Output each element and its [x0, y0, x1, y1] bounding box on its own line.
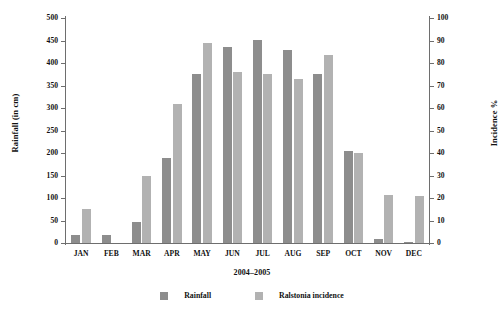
bar-incidence: [233, 72, 242, 243]
bar-rainfall: [71, 235, 80, 243]
tick-mark: [61, 153, 65, 154]
bar-group: JUN: [217, 18, 247, 243]
tick-label: 200: [47, 149, 58, 157]
tick-label: 20: [437, 194, 445, 202]
chart-figure: Rainfall (in cm) Incidence % 2004–2005 0…: [0, 0, 504, 316]
tick-mark: [61, 198, 65, 199]
tick-mark: [61, 18, 65, 19]
bar-group: FEB: [96, 18, 126, 243]
x-axis-category-label: JAN: [74, 249, 89, 258]
bar-group: JUL: [248, 18, 278, 243]
y-axis-left-title: Rainfall (in cm): [10, 63, 20, 183]
x-axis-category-label: NOV: [375, 249, 392, 258]
tick-label: 400: [47, 59, 58, 67]
x-axis-category-label: MAR: [133, 249, 151, 258]
bar-rainfall: [192, 74, 201, 243]
bar-rainfall: [132, 222, 141, 243]
tick-mark: [430, 198, 434, 199]
x-axis-category-label: JUN: [225, 249, 240, 258]
tick-label: 50: [437, 127, 445, 135]
x-axis-category-label: OCT: [345, 249, 361, 258]
legend-label: Ralstonia incidence: [279, 291, 344, 300]
tick-label: 40: [437, 149, 445, 157]
x-axis-category-label: AUG: [284, 249, 301, 258]
tick-mark: [430, 41, 434, 42]
bar-incidence: [173, 104, 182, 244]
tick-mark: [430, 221, 434, 222]
bar-rainfall: [283, 50, 292, 243]
bar-incidence: [324, 55, 333, 243]
tick-label: 0: [54, 239, 58, 247]
y-axis-right-title: Incidence %: [489, 63, 499, 183]
tick-label: 30: [437, 172, 445, 180]
tick-label: 90: [437, 37, 445, 45]
bar-rainfall: [253, 40, 262, 243]
x-axis-title: 2004–2005: [0, 268, 504, 277]
tick-label: 60: [437, 104, 445, 112]
tick-mark: [430, 131, 434, 132]
tick-label: 100: [437, 14, 448, 22]
tick-mark: [430, 243, 434, 244]
bar-group: JAN: [66, 18, 96, 243]
x-axis-category-label: APR: [164, 249, 180, 258]
bar-group: NOV: [369, 18, 399, 243]
bar-group: APR: [157, 18, 187, 243]
bar-rainfall: [162, 158, 171, 243]
tick-mark: [61, 63, 65, 64]
bar-incidence: [142, 176, 151, 244]
tick-mark: [61, 176, 65, 177]
tick-mark: [430, 108, 434, 109]
legend-item: Rainfall: [160, 291, 211, 300]
tick-mark: [61, 243, 65, 244]
tick-label: 100: [47, 194, 58, 202]
tick-label: 500: [47, 14, 58, 22]
tick-label: 450: [47, 37, 58, 45]
tick-mark: [61, 108, 65, 109]
bar-rainfall: [404, 242, 413, 243]
bar-incidence: [82, 209, 91, 243]
bar-rainfall: [374, 239, 383, 243]
tick-label: 10: [437, 217, 445, 225]
tick-label: 150: [47, 172, 58, 180]
tick-label: 50: [50, 217, 58, 225]
tick-mark: [61, 131, 65, 132]
tick-label: 0: [437, 239, 441, 247]
tick-mark: [61, 41, 65, 42]
legend-label: Rainfall: [184, 291, 211, 300]
x-axis-category-label: SEP: [316, 249, 330, 258]
tick-label: 80: [437, 59, 445, 67]
x-axis-category-label: JUL: [255, 249, 269, 258]
tick-mark: [430, 86, 434, 87]
bar-group: MAY: [187, 18, 217, 243]
bar-incidence: [354, 153, 363, 243]
chart-legend: RainfallRalstonia incidence: [0, 291, 504, 300]
bar-rainfall: [313, 74, 322, 243]
bar-rainfall: [344, 151, 353, 243]
tick-mark: [61, 86, 65, 87]
bar-incidence: [384, 195, 393, 243]
bar-incidence: [203, 43, 212, 243]
bar-incidence: [415, 196, 424, 243]
x-axis-category-label: FEB: [104, 249, 119, 258]
legend-swatch: [255, 292, 263, 300]
tick-mark: [430, 63, 434, 64]
x-axis-category-label: MAY: [193, 249, 210, 258]
bar-group: SEP: [308, 18, 338, 243]
x-axis-category-label: DEC: [406, 249, 422, 258]
bar-incidence: [263, 74, 272, 243]
tick-mark: [430, 153, 434, 154]
bar-group: OCT: [338, 18, 368, 243]
bar-incidence: [294, 79, 303, 243]
tick-label: 350: [47, 82, 58, 90]
bar-group: AUG: [278, 18, 308, 243]
tick-label: 250: [47, 127, 58, 135]
bar-group: DEC: [399, 18, 429, 243]
bar-group: MAR: [127, 18, 157, 243]
plot-area: 050100150200250300350400450500 010203040…: [66, 18, 429, 243]
tick-label: 300: [47, 104, 58, 112]
tick-mark: [430, 176, 434, 177]
bar-rainfall: [223, 47, 232, 243]
legend-swatch: [160, 292, 168, 300]
tick-label: 70: [437, 82, 445, 90]
bar-rainfall: [102, 235, 111, 243]
